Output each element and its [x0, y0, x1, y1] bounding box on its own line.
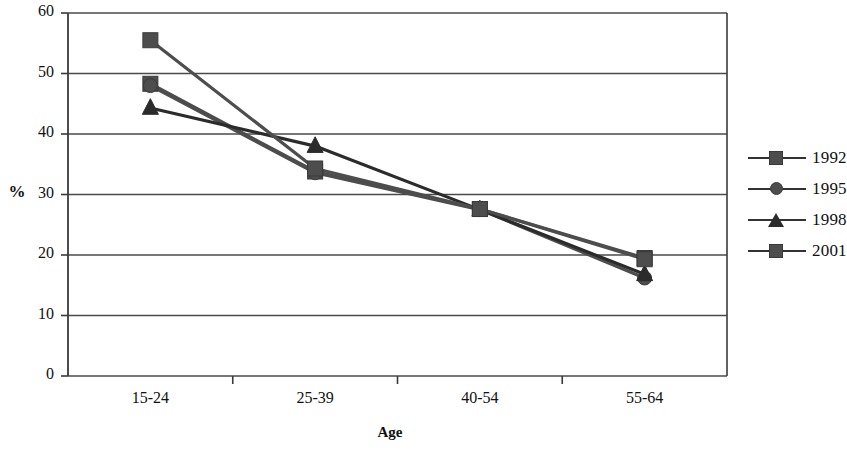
series-lines: [150, 40, 644, 278]
x-tick-label: 55-64: [590, 389, 700, 407]
legend-item-2001[interactable]: 2001: [748, 235, 847, 266]
x-tick-label: 25-39: [260, 389, 370, 407]
legend-item-1995[interactable]: 1995: [748, 173, 847, 204]
legend-label: 1995: [806, 179, 847, 199]
square-marker-icon: [769, 244, 783, 258]
triangle-marker-icon: [768, 213, 784, 227]
legend-label: 2001: [806, 241, 847, 261]
x-tick-label: 40-54: [425, 389, 535, 407]
y-tick-label: 20: [14, 244, 54, 262]
y-tick-label: 30: [14, 184, 54, 202]
y-tick-label: 60: [14, 2, 54, 20]
square-marker-icon: [769, 151, 783, 165]
legend-item-1992[interactable]: 1992: [748, 142, 847, 173]
gridlines: [68, 13, 727, 376]
legend-key-1992: [748, 147, 806, 169]
legend-label: 1992: [806, 148, 847, 168]
chart-container: % Age 0102030405060 15-2425-3940-5455-64…: [0, 0, 847, 450]
legend-key-1995: [748, 178, 806, 200]
axis-ticks: [61, 13, 562, 384]
y-tick-label: 40: [14, 123, 54, 141]
legend-item-1998[interactable]: 1998: [748, 204, 847, 235]
chart-legend: 1992199519982001: [748, 142, 847, 266]
legend-key-2001: [748, 240, 806, 262]
y-tick-label: 0: [14, 365, 54, 383]
legend-key-1998: [748, 209, 806, 231]
legend-label: 1998: [806, 210, 847, 230]
y-tick-label: 50: [14, 63, 54, 81]
x-tick-label: 15-24: [95, 389, 205, 407]
circle-marker-icon: [770, 182, 783, 195]
y-tick-label: 10: [14, 305, 54, 323]
x-axis-title: Age: [330, 424, 450, 441]
plot-area: [0, 0, 847, 450]
